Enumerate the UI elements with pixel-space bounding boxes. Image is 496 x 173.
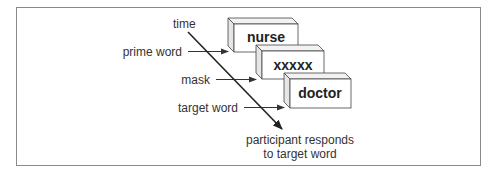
time-label: time <box>173 17 196 31</box>
response-label-line2: to target word <box>263 147 336 161</box>
prime-word-label: prime word <box>123 45 182 59</box>
prime-word-text: nurse <box>247 29 285 45</box>
mask-label: mask <box>181 73 211 87</box>
target-word-text: doctor <box>298 85 342 101</box>
masked-priming-diagram: nurse xxxxx doctor time prime word mask … <box>0 0 496 173</box>
response-label-line1: participant responds <box>246 133 354 147</box>
mask-word-text: xxxxx <box>274 57 313 73</box>
target-word-label: target word <box>178 101 238 115</box>
target-screen-box: doctor <box>284 73 351 108</box>
